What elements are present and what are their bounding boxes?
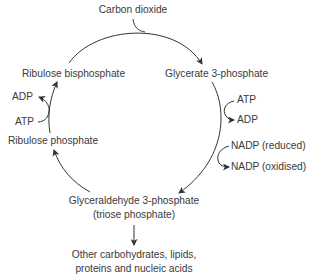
nadp-arrow xyxy=(218,146,229,167)
left-adp-label: ADP xyxy=(12,91,33,103)
right-adp-label: ADP xyxy=(237,114,258,126)
arc-rubp-to-g3p xyxy=(69,33,202,64)
carbon-dioxide-label: Carbon dioxide xyxy=(99,4,168,16)
products-label-line2: proteins and nucleic acids xyxy=(75,263,192,275)
ribulose-phosphate-label: Ribulose phosphate xyxy=(8,135,98,147)
ribulose-bisphosphate-label: Ribulose bisphosphate xyxy=(22,68,125,80)
atp-adp-left-arrow xyxy=(38,97,49,122)
nadp-reduced-label: NADP (reduced) xyxy=(231,140,306,152)
glycerate-3-phosphate-label: Glycerate 3-phosphate xyxy=(165,68,268,80)
right-atp-label: ATP xyxy=(237,94,256,106)
nadp-oxidised-label: NADP (oxidised) xyxy=(231,161,306,173)
arc-g3p-to-gald3p xyxy=(179,82,221,193)
glyceraldehyde-3-phosphate-label: Glyceraldehyde 3-phosphate xyxy=(69,195,199,207)
atp-adp-right-arrow xyxy=(224,101,234,120)
triose-phosphate-label: (triose phosphate) xyxy=(93,209,175,221)
left-atp-label: ATP xyxy=(15,116,34,128)
products-label-line1: Other carbohydrates, lipids, xyxy=(72,249,197,261)
arc-gald3p-to-rup xyxy=(54,150,90,192)
arc-rup-to-rubp xyxy=(49,82,57,133)
co2-input-arrow xyxy=(133,19,145,32)
